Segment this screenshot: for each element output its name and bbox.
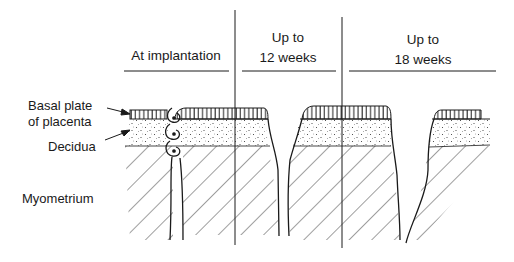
column-header-12-weeks: Up to 12 weeks: [240, 28, 336, 68]
column-header-18-weeks-line2: 18 weeks: [350, 50, 496, 70]
column-header-18-weeks: Up to 18 weeks: [350, 30, 496, 70]
label-basal-plate-line2: of placenta: [28, 114, 92, 130]
label-myometrium: Myometrium: [22, 191, 94, 207]
column-header-12-weeks-line1: Up to: [240, 28, 336, 48]
column-header-implantation: At implantation: [120, 46, 232, 66]
tissue-block-left: [125, 108, 280, 240]
tissue-block-middle: [288, 106, 400, 240]
tissue-block-right: [406, 110, 490, 243]
label-decidua: Decidua: [48, 139, 96, 155]
column-header-18-weeks-line1: Up to: [350, 30, 496, 50]
column-header-12-weeks-line2: 12 weeks: [240, 48, 336, 68]
label-basal-plate: Basal plate of placenta: [28, 98, 92, 130]
label-basal-plate-line1: Basal plate: [28, 98, 92, 114]
label-arrows: [105, 108, 130, 140]
